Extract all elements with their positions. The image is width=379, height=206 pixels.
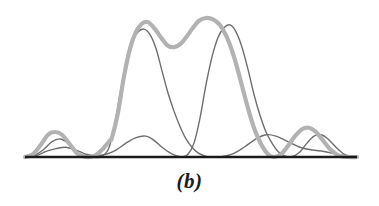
element-pattern-right-curve: [25, 25, 357, 157]
curve-layer-envelope: [25, 18, 357, 157]
array-pattern-envelope-curve: [25, 18, 357, 157]
element-pattern-left-curve: [25, 29, 357, 158]
figure-container: (b): [0, 0, 379, 206]
curve-layer-elements: [25, 25, 357, 158]
figure-caption: (b): [0, 168, 379, 194]
